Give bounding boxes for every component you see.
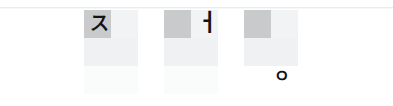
grid-cell-r3c2[interactable] [271,66,298,94]
grid-cell-r3c2[interactable] [191,66,218,94]
grid-cell-r2c1[interactable] [244,38,271,66]
grid-cell-r2c1[interactable] [164,38,191,66]
grid-cell-r3c1[interactable] [244,66,271,94]
grid-cell-r2c1[interactable] [84,38,111,66]
grid-cell-r1c1[interactable] [84,10,111,38]
character-group-3[interactable]: ㅇ [244,10,298,94]
grid-cell-r1c2[interactable] [271,10,298,38]
grid-cell-r1c1[interactable] [164,10,191,38]
grid-cell-r3c1[interactable] [164,66,191,94]
grid-cell-r2c2[interactable] [271,38,298,66]
grid-cell-r2c2[interactable] [111,38,138,66]
grid-cell-r1c2[interactable] [191,10,218,38]
top-separator-line-soft [0,8,393,9]
character-group-strip: ス ㅓ ㅇ [84,10,298,94]
grid-cell-r1c1[interactable] [244,10,271,38]
grid-cell-r1c2[interactable] [111,10,138,38]
grid-cell-r3c1[interactable] [84,66,111,94]
grid-cell-r3c2[interactable] [111,66,138,94]
character-grid-canvas: ス ㅓ ㅇ [0,0,393,106]
character-group-2[interactable]: ㅓ [164,10,218,94]
grid-cell-r2c2[interactable] [191,38,218,66]
character-group-1[interactable]: ス [84,10,138,94]
